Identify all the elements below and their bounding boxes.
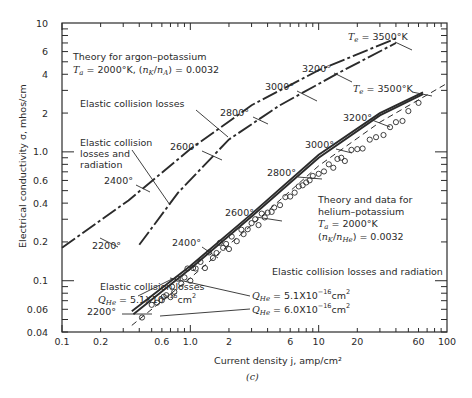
x-tick-label: 0.6: [154, 336, 169, 347]
temperature-label: 2200°: [92, 240, 121, 251]
temperature-label: 3200°: [302, 63, 331, 74]
data-point: [234, 239, 239, 244]
annotation-text: losses and: [80, 148, 130, 159]
annotation-text: helium–potassium: [318, 206, 404, 217]
annotation-text: radiation: [80, 159, 122, 170]
data-point: [262, 215, 267, 220]
temperature-label: 2600°: [170, 141, 199, 152]
data-point: [272, 205, 277, 210]
data-point: [277, 203, 282, 208]
temperature-label: 2800°: [220, 107, 249, 118]
y-tick-label: 4: [42, 69, 48, 80]
leader-line: [298, 177, 322, 179]
y-tick-label: 0.06: [27, 304, 48, 315]
temperature-label: Te = 3500°K: [348, 31, 408, 44]
leader-line: [256, 217, 282, 221]
argon-params-label: Ta = 2000°K, (nK/nA) = 0.0032: [73, 64, 219, 77]
svg-text:Ta = 2000°K, (nK/nA) = 0.0032: Ta = 2000°K, (nK/nA) = 0.0032: [73, 64, 219, 77]
annotation-text: Elastic collision losses and radiation: [272, 266, 443, 277]
data-point: [292, 190, 297, 195]
y-tick-label: 6: [42, 46, 48, 57]
data-point: [331, 165, 336, 170]
temperature-label: 2200°: [87, 306, 116, 317]
chart-svg: 0.10.20.61.026102060100 0.040.060.10.20.…: [0, 0, 472, 398]
y-tick-label: 0.6: [33, 175, 48, 186]
chart-figure: 0.10.20.61.026102060100 0.040.060.10.20.…: [0, 0, 472, 398]
data-point: [245, 227, 250, 232]
x-tick-label: 100: [438, 336, 456, 347]
temperature-label: Te = 3500°K: [353, 83, 413, 96]
data-point: [349, 147, 354, 152]
data-point: [321, 169, 326, 174]
data-point: [381, 132, 386, 137]
annotation-text: Elastic collision: [80, 137, 152, 148]
data-point: [202, 265, 207, 270]
svg-text:(nK/nHe) = 0.0032: (nK/nHe) = 0.0032: [318, 231, 404, 244]
x-tick-label: 20: [351, 336, 363, 347]
temperature-label: 3200°: [343, 112, 372, 123]
data-point: [182, 275, 187, 280]
leader-line: [132, 150, 170, 205]
temperature-label: 3000°: [265, 81, 294, 92]
svg-text:QHe = 6.0X10−16cm2: QHe = 6.0X10−16cm2: [252, 302, 350, 317]
data-point: [406, 108, 411, 113]
leader-line: [334, 73, 352, 82]
y-tick-label: 0.2: [33, 236, 48, 247]
data-point: [326, 162, 331, 167]
y-tick-label: 2: [42, 108, 48, 119]
x-tick-label: 0.2: [93, 336, 108, 347]
x-tick-label: 10: [313, 336, 325, 347]
data-point: [224, 241, 229, 246]
x-axis-label: Current density j, amp/cm²: [214, 355, 342, 366]
data-point: [416, 100, 421, 105]
y-tick-label: 1.0: [33, 146, 48, 157]
y-tick-label: 0.4: [33, 198, 48, 209]
temperature-label: 2400°: [172, 237, 201, 248]
y-tick-label: 0.1: [33, 275, 48, 286]
data-point: [360, 146, 365, 151]
data-point: [316, 171, 321, 176]
leader-line: [160, 309, 250, 316]
temperature-label: 2400°: [104, 175, 133, 186]
x-tick-label: 0.1: [54, 336, 69, 347]
data-point: [387, 125, 392, 130]
temperature-label: 3000°: [305, 139, 334, 150]
x-tick-label: 6: [287, 336, 293, 347]
leader-line: [202, 151, 222, 160]
y-axis-label: Electrical conductivity σ, mhos/cm: [17, 84, 28, 248]
leader-line: [136, 185, 150, 192]
data-point: [355, 147, 360, 152]
x-tick-label: 60: [412, 336, 424, 347]
data-point: [393, 120, 398, 125]
x-tick-label: 1.0: [183, 336, 198, 347]
leader-line: [395, 42, 412, 50]
svg-text:QHe = 5.1X10−16cm2: QHe = 5.1X10−16cm2: [98, 292, 196, 307]
temperature-label: 2600°: [225, 207, 254, 218]
annotation-text: Theory and data for: [317, 194, 412, 205]
svg-text:Ta = 2000°K: Ta = 2000°K: [318, 218, 378, 231]
data-point: [367, 137, 372, 142]
data-point: [400, 118, 405, 123]
y-tick-label: 0.04: [27, 327, 48, 338]
data-point: [226, 246, 231, 251]
annotation-text: Theory for argon–potassium: [72, 51, 207, 62]
data-point: [256, 223, 261, 228]
figure-caption: (c): [246, 371, 259, 382]
data-point: [229, 234, 234, 239]
y-tick-label: 10: [36, 18, 48, 29]
data-point: [288, 194, 293, 199]
data-point: [342, 158, 347, 163]
temperature-label: 2800°: [267, 167, 296, 178]
annotation-text: Elastic collision losses: [80, 98, 185, 109]
annotation-text: Elastic collision losses: [100, 281, 205, 292]
svg-text:QHe = 5.1X10−16cm2: QHe = 5.1X10−16cm2: [252, 288, 350, 303]
x-tick-label: 2: [226, 336, 232, 347]
data-point: [373, 135, 378, 140]
leader-line: [297, 91, 317, 101]
helium-params-label: Ta = 2000°K (nK/nHe) = 0.0032: [318, 218, 404, 244]
